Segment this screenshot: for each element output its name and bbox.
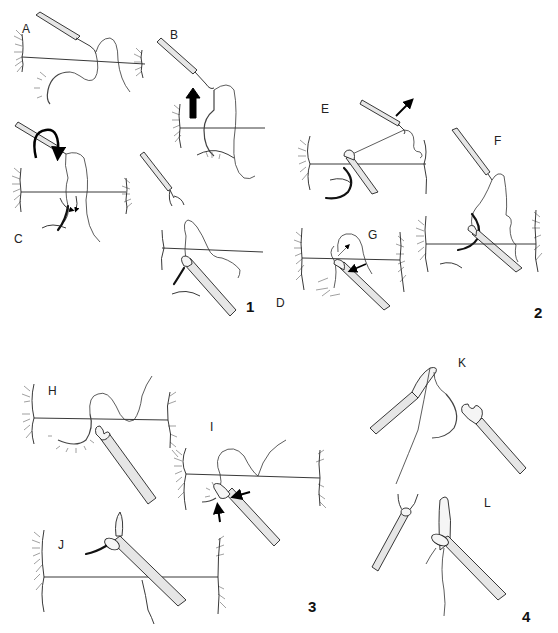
figure-illustration <box>0 0 558 633</box>
step-label-h: H <box>48 384 57 398</box>
panel-number-4: 4 <box>522 608 530 625</box>
pull-arrow-icon <box>396 102 410 116</box>
step-label-d: D <box>276 296 285 310</box>
step-label-a: A <box>22 22 30 36</box>
step-a-illustration <box>14 12 145 104</box>
step-label-b: B <box>170 28 178 42</box>
step-label-c: C <box>14 232 23 246</box>
step-label-g: G <box>368 228 377 242</box>
step-c-illustration <box>12 122 132 242</box>
step-d-illustration <box>140 152 263 316</box>
panel-number-1: 1 <box>246 298 254 315</box>
step-k-illustration <box>370 368 526 485</box>
step-label-j: J <box>58 538 64 552</box>
step-h-illustration <box>22 376 178 504</box>
step-g-illustration <box>294 228 406 310</box>
push-arrow-icon <box>352 264 366 270</box>
lift-arrow-icon <box>218 508 220 522</box>
up-arrow-icon <box>186 88 200 118</box>
panel-number-3: 3 <box>308 598 316 615</box>
step-e-illustration <box>298 100 427 198</box>
step-label-f: F <box>494 134 501 148</box>
panel-number-2: 2 <box>534 304 542 321</box>
step-label-e: E <box>321 102 329 116</box>
step-l-illustration <box>372 494 506 616</box>
step-f-illustration <box>416 128 542 272</box>
step-i-illustration <box>174 440 326 546</box>
suturing-figure: A B C D E F G H I J K L 1 2 3 4 <box>0 0 558 633</box>
step-label-l: L <box>484 496 491 510</box>
step-j-illustration <box>32 512 226 624</box>
step-label-i: I <box>210 420 213 434</box>
step-label-k: K <box>458 356 466 370</box>
step-b-illustration <box>157 38 265 179</box>
